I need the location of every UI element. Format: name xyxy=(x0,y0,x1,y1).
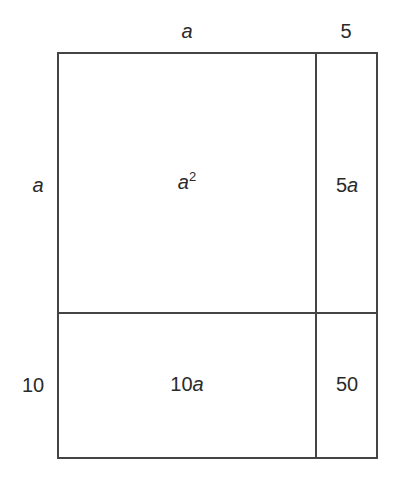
region-5a: 5a xyxy=(336,175,358,195)
outer-rectangle xyxy=(57,52,378,459)
region-a-squared-exp: 2 xyxy=(189,169,196,184)
top-label-5: 5 xyxy=(340,21,351,41)
region-10a-var: a xyxy=(193,373,204,395)
vertical-divider xyxy=(315,52,317,459)
top-label-a: a xyxy=(181,21,192,41)
region-10a-coef: 10 xyxy=(170,373,192,395)
region-a-squared-var: a xyxy=(178,171,189,193)
area-model-diagram: a 5 a 10 a2 5a 10a 50 xyxy=(0,0,402,483)
region-10a: 10a xyxy=(170,374,203,394)
horizontal-divider xyxy=(57,312,378,314)
side-label-a: a xyxy=(32,175,43,195)
side-label-10: 10 xyxy=(22,375,44,395)
region-50: 50 xyxy=(336,374,358,394)
region-a-squared: a2 xyxy=(178,172,196,195)
region-5a-var: a xyxy=(347,174,358,196)
region-5a-coef: 5 xyxy=(336,174,347,196)
